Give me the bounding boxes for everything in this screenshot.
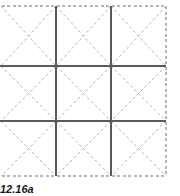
diagram-background <box>0 0 180 180</box>
figure-caption: 12.16a <box>0 182 180 196</box>
grid-pattern-diagram <box>0 0 180 180</box>
figure-container: 12.16a <box>0 0 180 196</box>
